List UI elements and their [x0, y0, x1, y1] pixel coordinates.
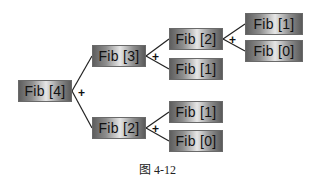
node-root: Fib [4]: [18, 80, 72, 102]
plus-operator: +: [152, 51, 159, 63]
node-fib3: Fib [3]: [92, 45, 146, 67]
plus-operator: +: [229, 34, 236, 46]
figure-caption: 图 4-12: [0, 160, 315, 178]
plus-operator: +: [152, 123, 159, 135]
node-fib1-leaf: Fib [1]: [245, 13, 303, 35]
node-fib0-leaf: Fib [0]: [245, 40, 303, 62]
node-fib0-lower: Fib [0]: [169, 130, 223, 152]
node-fib2-upper: Fib [2]: [169, 28, 223, 50]
node-fib1-mid: Fib [1]: [169, 58, 223, 80]
plus-operator: +: [78, 87, 85, 99]
node-fib2-lower: Fib [2]: [92, 117, 146, 139]
node-fib1-lower: Fib [1]: [169, 101, 223, 123]
